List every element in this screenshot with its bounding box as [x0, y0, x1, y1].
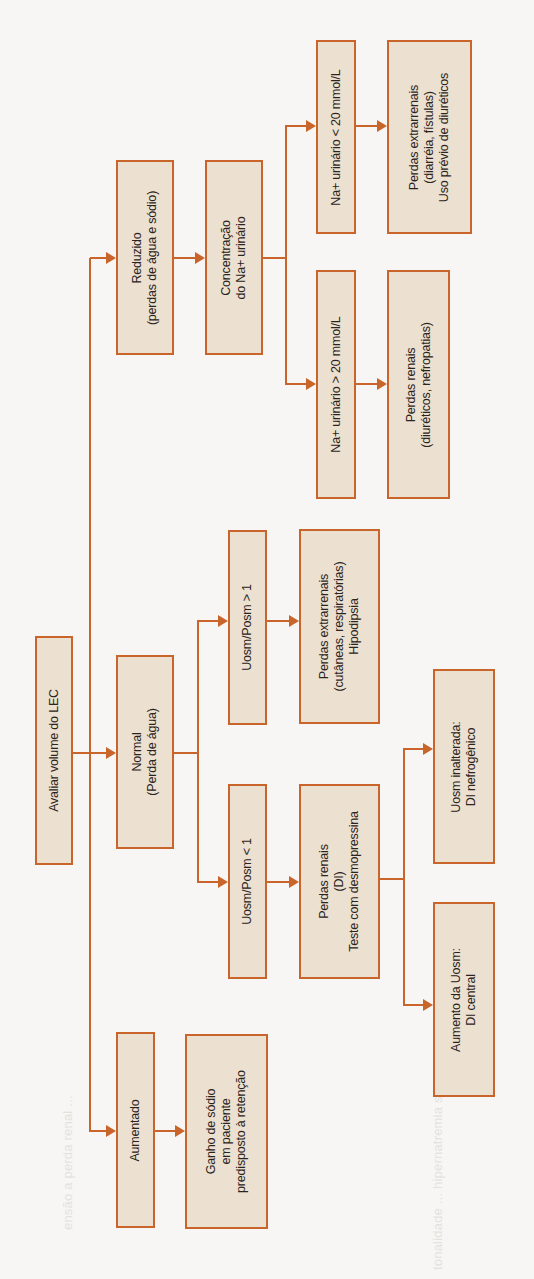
- arrow-icon: [306, 120, 316, 132]
- connector-uosm-maior-out: [266, 620, 289, 622]
- box-na-urinario-maior-20: Na+ urinário > 20 mmol/L: [316, 270, 356, 499]
- arrow-icon: [423, 743, 433, 755]
- box-uosm-posm-menor-1: Uosm/Posm < 1: [228, 784, 267, 979]
- box-reduzido: Reduzido(perdas de água e sódio): [116, 160, 174, 355]
- arrow-icon: [218, 615, 228, 627]
- arrow-icon: [423, 999, 433, 1011]
- arrow-icon: [218, 876, 228, 888]
- box-perdas-extrarrenais-diarreia: Perdas extrarrenais(diarréia, fístulas)U…: [387, 40, 472, 234]
- arrow-icon: [289, 876, 299, 888]
- arrow-icon: [106, 252, 116, 264]
- connector-concentracao-branch: [262, 257, 286, 259]
- arrow-icon: [175, 1125, 185, 1137]
- arrow-icon: [306, 378, 316, 390]
- box-normal: Normal(Perda de água): [116, 655, 174, 849]
- connector-to-reduzido: [90, 257, 106, 259]
- connector-to-uosm-maior: [197, 620, 218, 622]
- connector-di-branch: [379, 878, 404, 880]
- connector-to-na-menor: [285, 125, 306, 127]
- branch-na: [285, 125, 287, 384]
- connector-na-menor-out: [355, 125, 377, 127]
- connector-to-normal: [90, 752, 106, 754]
- box-concentracao-na: Concentraçãodo Na+ urinário: [205, 160, 263, 355]
- box-avaliar-volume-lec: Avaliar volume do LEC: [35, 636, 73, 865]
- box-na-urinario-menor-20: Na+ urinário < 20 mmol/L: [316, 40, 356, 234]
- connector-reduzido-concentracao: [173, 257, 195, 259]
- spine-connector: [89, 258, 91, 1132]
- box-uosm-inalterada: Uosm inalterada:DI nefrogênico: [433, 669, 495, 864]
- connector-normal-branch: [173, 752, 198, 754]
- connector-root-spine: [72, 752, 90, 754]
- arrow-icon: [377, 120, 387, 132]
- arrow-icon: [195, 252, 205, 264]
- connector-aumentado-ganho: [154, 1130, 175, 1132]
- arrow-icon: [106, 1125, 116, 1137]
- branch-uosm: [197, 620, 199, 883]
- box-ganho-sodio: Ganho de sódioem pacientepredisposto à r…: [185, 1034, 268, 1229]
- connector-to-uosm-menor: [197, 881, 218, 883]
- arrow-icon: [377, 378, 387, 390]
- connector-na-maior-out: [355, 383, 377, 385]
- box-uosm-posm-maior-1: Uosm/Posm > 1: [228, 530, 267, 725]
- arrow-icon: [289, 615, 299, 627]
- connector-to-na-maior: [285, 383, 306, 385]
- box-aumento-uosm: Aumento da Uosm:DI central: [433, 902, 495, 1097]
- connector-uosm-menor-out: [266, 881, 289, 883]
- connector-to-aumentado: [90, 1130, 106, 1132]
- box-aumentado: Aumentado: [116, 1032, 155, 1228]
- bleed-through-text: ensão a perda renal ...: [60, 1095, 75, 1230]
- connector-to-uosm-inalterada: [403, 748, 423, 750]
- box-perdas-extrarrenais-cutaneas: Perdas extrarrenais(cutâneas, respiratór…: [299, 529, 380, 724]
- arrow-icon: [106, 747, 116, 759]
- box-perdas-renais-di: Perdas renais(DI)Teste com desmopressina: [299, 784, 380, 979]
- box-perdas-renais-diureticos: Perdas renais(diuréticos, nefropatias): [387, 270, 450, 499]
- branch-di: [403, 748, 405, 1005]
- connector-to-aumento-uosm: [403, 1004, 423, 1006]
